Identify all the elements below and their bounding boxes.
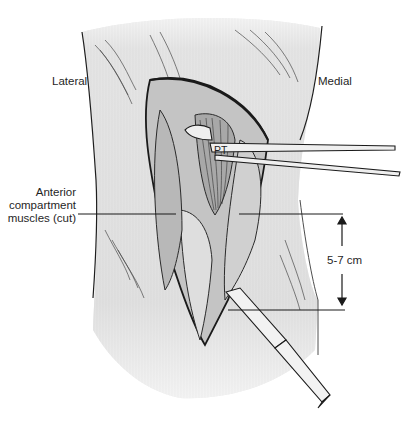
medial-label: Medial	[318, 75, 352, 88]
anterior-label-line-2: compartment	[0, 199, 76, 212]
anterior-compartment-label: Anterior compartment muscles (cut)	[0, 186, 76, 225]
measurement-label: 5-7 cm	[327, 254, 362, 267]
anterior-label-line-1: Anterior	[0, 186, 76, 199]
pt-label: PT	[214, 144, 227, 157]
lateral-label: Lateral	[52, 75, 87, 88]
anterior-label-line-3: muscles (cut)	[0, 212, 76, 225]
illustration-canvas: Lateral Medial PT Anterior compartment m…	[0, 0, 417, 421]
